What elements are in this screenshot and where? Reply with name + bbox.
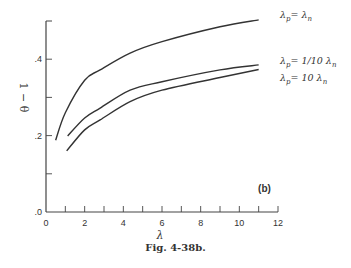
y-tick-label: .4 xyxy=(34,54,42,64)
x-tick-label: 8 xyxy=(198,218,203,228)
x-tick-label: 10 xyxy=(234,218,244,228)
y-tick-label: .2 xyxy=(34,131,42,141)
y-tick-label: .0 xyxy=(34,207,42,217)
x-tick-label: 12 xyxy=(273,218,283,228)
x-tick-label: 0 xyxy=(43,218,48,228)
y-axis-label: 1 − θ xyxy=(17,82,30,112)
curves xyxy=(56,20,259,151)
chart-plot: 024681012.0.2.4λ1 − θ(b) λp= λnλp= 1/10 … xyxy=(0,0,351,240)
legend-entry-1: λp= 1/10 λn xyxy=(279,55,337,69)
figure-caption: Fig. 4-38b. xyxy=(0,242,351,253)
x-tick-label: 2 xyxy=(82,218,87,228)
curve-series-0 xyxy=(56,20,259,140)
x-tick-label: 4 xyxy=(121,218,126,228)
legend-entry-2: λp= 10 λn xyxy=(279,72,328,86)
x-axis-label: λ xyxy=(156,229,164,240)
legend-entry-0: λp= λn xyxy=(279,9,313,23)
x-tick-label: 6 xyxy=(159,218,164,228)
legend: λp= λnλp= 1/10 λnλp= 10 λn xyxy=(279,9,337,86)
panel-label: (b) xyxy=(258,183,271,194)
axes: 024681012.0.2.4λ1 − θ(b) xyxy=(17,21,283,240)
